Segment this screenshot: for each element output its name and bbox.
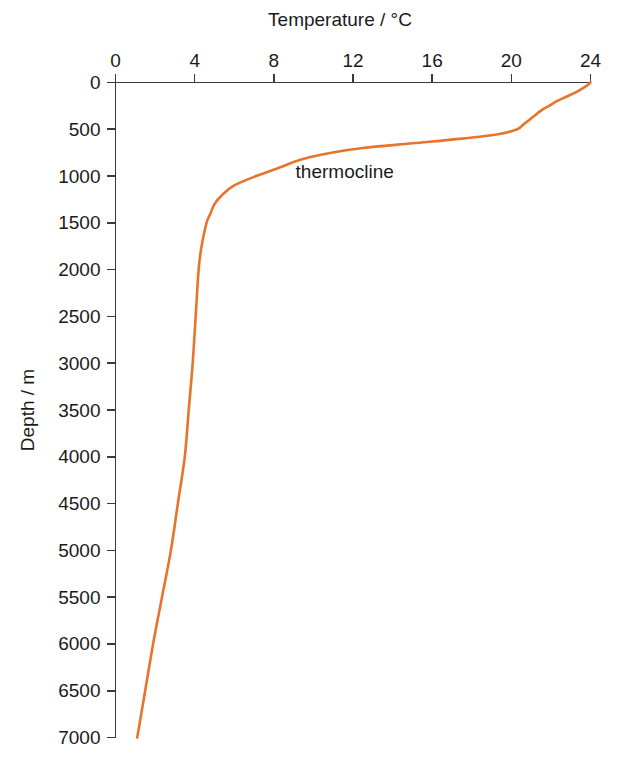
y-axis-tick-label: 7000 (58, 727, 100, 748)
y-axis-tick-label: 6000 (58, 633, 100, 654)
x-axis-tick-label: 12 (342, 50, 363, 71)
y-axis-title-group: Depth / m (17, 369, 38, 451)
thermocline-annotation-label: thermocline (296, 161, 394, 182)
x-axis-title-group: Temperature / °C (268, 9, 412, 30)
y-axis-title: Depth / m (17, 369, 38, 451)
y-axis-tick-label: 500 (69, 119, 101, 140)
x-axis-tick-label: 16 (422, 50, 443, 71)
annotations-group: thermocline (296, 161, 394, 182)
x-axis-tick-label: 24 (580, 50, 602, 71)
y-axis-tick-label: 5500 (58, 587, 100, 608)
y-axis-tick-label: 5000 (58, 540, 100, 561)
y-axis: 0500100015002000250030003500400045005000… (58, 72, 115, 748)
x-axis-tick-label: 20 (501, 50, 522, 71)
y-axis-tick-label: 2500 (58, 306, 100, 327)
x-axis-tick-label: 0 (110, 50, 121, 71)
y-axis-tick-label: 0 (90, 72, 101, 93)
temperature-depth-chart: Temperature / °C Depth / m 04812162024 0… (0, 0, 633, 766)
x-axis: 04812162024 (110, 50, 601, 83)
y-axis-tick-label: 3500 (58, 400, 100, 421)
y-axis-tick-label: 6500 (58, 680, 100, 701)
y-axis-tick-label: 4500 (58, 493, 100, 514)
x-axis-tick-label: 8 (269, 50, 280, 71)
chart-canvas: Temperature / °C Depth / m 04812162024 0… (0, 0, 633, 766)
y-axis-tick-label: 3000 (58, 353, 100, 374)
x-axis-tick-label: 4 (189, 50, 200, 71)
y-axis-tick-label: 1000 (58, 166, 100, 187)
y-axis-tick-label: 1500 (58, 212, 100, 233)
x-axis-title: Temperature / °C (268, 9, 412, 30)
y-axis-tick-label: 2000 (58, 259, 100, 280)
y-axis-tick-label: 4000 (58, 446, 100, 467)
